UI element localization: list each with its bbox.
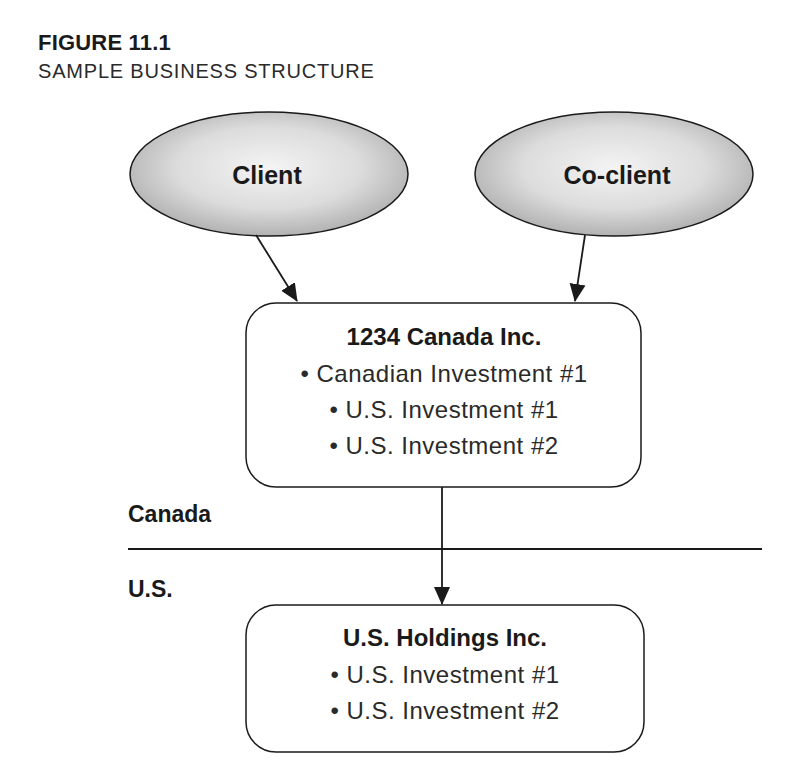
region-label-canada: Canada	[128, 501, 211, 527]
us-corp-item: • U.S. Investment #2	[330, 697, 559, 724]
coclient-ownership-arrow	[575, 235, 585, 301]
canada-corp-node: 1234 Canada Inc. • Canadian Investment #…	[246, 303, 641, 487]
canada-corp-item: • Canadian Investment #1	[300, 360, 587, 387]
canada-corp-title: 1234 Canada Inc.	[347, 323, 542, 350]
coclient-label: Co-client	[564, 161, 672, 189]
coclient-node: Co-client	[475, 112, 753, 236]
us-corp-item: • U.S. Investment #1	[330, 661, 559, 688]
canada-corp-item: • U.S. Investment #2	[329, 432, 558, 459]
client-node: Client	[130, 112, 408, 236]
us-corp-node: U.S. Holdings Inc. • U.S. Investment #1 …	[246, 605, 644, 752]
structure-diagram: Client Co-client 1234 Canada Inc. • Cana…	[0, 0, 796, 778]
client-label: Client	[232, 161, 302, 189]
us-corp-title: U.S. Holdings Inc.	[343, 624, 547, 651]
region-label-us: U.S.	[128, 576, 173, 602]
client-ownership-arrow	[256, 235, 297, 301]
canada-corp-item: • U.S. Investment #1	[329, 396, 558, 423]
